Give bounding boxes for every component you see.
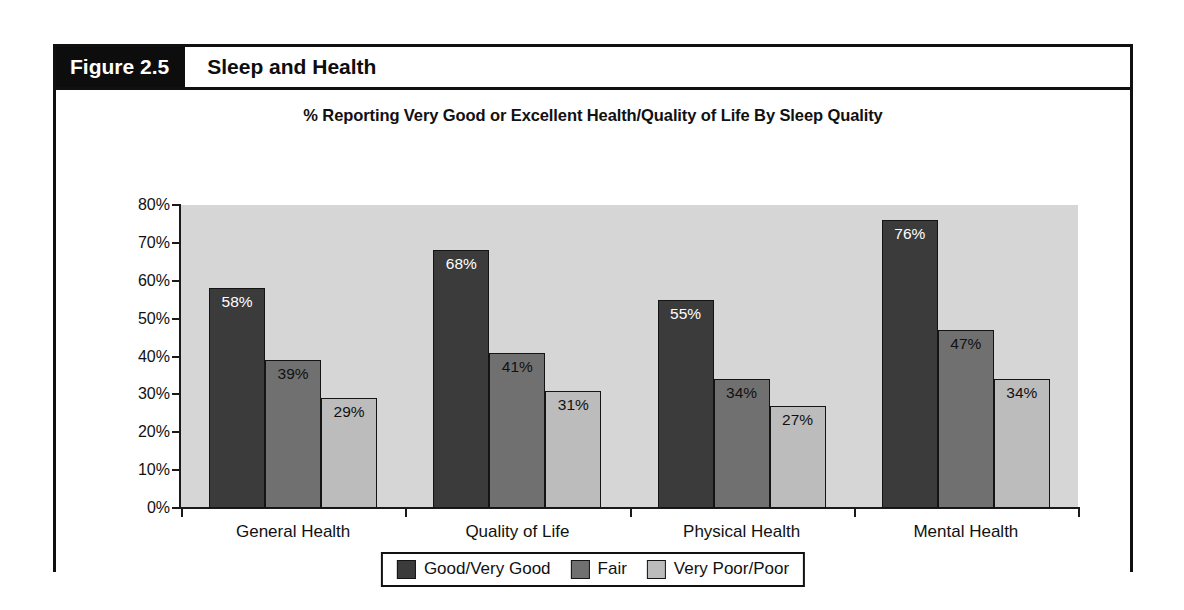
bar-value-label: 34% <box>995 385 1049 401</box>
x-axis-category-label: General Health <box>236 522 350 542</box>
y-axis-tick-label: 0% <box>108 499 170 517</box>
bar: 31% <box>545 391 601 508</box>
bar-value-label: 58% <box>210 294 264 310</box>
bar-value-label: 68% <box>434 256 488 272</box>
y-axis-tick-label: 20% <box>108 423 170 441</box>
figure-frame: Figure 2.5 Sleep and Health % Reporting … <box>53 44 1133 572</box>
chart-title: % Reporting Very Good or Excellent Healt… <box>56 106 1130 125</box>
legend-item: Very Poor/Poor <box>647 559 789 579</box>
legend-swatch-icon <box>571 560 590 579</box>
legend-item: Good/Very Good <box>397 559 551 579</box>
x-axis-category-label: Quality of Life <box>465 522 569 542</box>
bar-value-label: 47% <box>939 336 993 352</box>
bar-value-label: 55% <box>659 306 713 322</box>
x-axis-category-label: Mental Health <box>913 522 1018 542</box>
x-axis-tick-mark <box>1078 508 1080 517</box>
x-axis-category-label: Physical Health <box>683 522 800 542</box>
legend-label: Fair <box>598 559 627 579</box>
legend-swatch-icon <box>647 560 666 579</box>
bar-value-label: 34% <box>715 385 769 401</box>
bar: 58% <box>209 288 265 508</box>
y-axis-tick-label: 40% <box>108 348 170 366</box>
bar-value-label: 41% <box>490 359 544 375</box>
bar-value-label: 29% <box>322 404 376 420</box>
y-axis-tick-label: 60% <box>108 272 170 290</box>
bar-value-label: 39% <box>266 366 320 382</box>
bar: 76% <box>882 220 938 508</box>
y-axis-tick-label: 10% <box>108 461 170 479</box>
figure-title: Sleep and Health <box>185 47 1130 87</box>
bar: 41% <box>489 353 545 508</box>
y-axis-tick-label: 80% <box>108 196 170 214</box>
bar: 47% <box>938 330 994 508</box>
bar: 34% <box>714 379 770 508</box>
bar: 68% <box>433 250 489 508</box>
y-axis-tick-label: 50% <box>108 310 170 328</box>
legend-label: Good/Very Good <box>424 559 551 579</box>
bar-value-label: 31% <box>546 397 600 413</box>
y-axis-tick-label: 70% <box>108 234 170 252</box>
x-axis-tick-mark <box>630 508 632 517</box>
legend-item: Fair <box>571 559 627 579</box>
y-axis-tick-label: 30% <box>108 385 170 403</box>
x-axis-tick-mark <box>405 508 407 517</box>
legend-label: Very Poor/Poor <box>674 559 789 579</box>
chart-area: % Reporting Very Good or Excellent Healt… <box>56 90 1130 572</box>
bar-value-label: 76% <box>883 226 937 242</box>
legend-swatch-icon <box>397 560 416 579</box>
figure-header: Figure 2.5 Sleep and Health <box>56 47 1130 87</box>
figure-number-label: Figure 2.5 <box>56 47 185 87</box>
x-axis-tick-mark <box>854 508 856 517</box>
bar: 39% <box>265 360 321 508</box>
bar: 55% <box>658 300 714 508</box>
bar-value-label: 27% <box>771 412 825 428</box>
y-axis-line <box>179 204 181 509</box>
chart-legend: Good/Very GoodFairVery Poor/Poor <box>381 552 805 587</box>
bar: 29% <box>321 398 377 508</box>
bar: 34% <box>994 379 1050 508</box>
x-axis-tick-mark <box>181 508 183 517</box>
bar: 27% <box>770 406 826 508</box>
